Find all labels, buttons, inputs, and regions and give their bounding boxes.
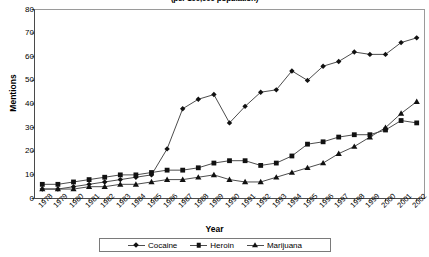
x-tick-label: 1983 [115,192,132,209]
chart-legend: CocaineHeroinMarijuana [99,238,331,252]
square-marker-icon [190,241,207,249]
x-tick-label: 1990 [224,192,241,209]
x-tick-label: 1995 [302,192,319,209]
x-tick-label: 1993 [271,192,288,209]
x-tick-label: 1980 [68,192,85,209]
legend-item-cocaine[interactable]: Cocaine [128,241,177,250]
mentions-line-chart: (per 100,000 population) Mentions 010203… [0,0,429,257]
x-tick-label: 2000 [380,192,397,209]
x-tick-label: 2001 [396,192,413,209]
diamond-marker-icon [128,241,145,249]
x-tick-label: 1978 [37,192,54,209]
x-tick-label: 1989 [208,192,225,209]
x-tick-label: 1984 [130,192,147,209]
x-tick-label: 1991 [240,192,257,209]
legend-item-label: Heroin [210,241,234,250]
x-tick-label: 1999 [364,192,381,209]
legend-item-label: Marijuana [267,241,302,250]
x-tick-label: 1981 [84,192,101,209]
x-axis-title: Year [0,224,429,234]
x-tick-label: 1988 [193,192,210,209]
x-tick-label: 1987 [177,192,194,209]
x-tick-label: 1996 [318,192,335,209]
x-tick-label: 1979 [52,192,69,209]
legend-item-marijuana[interactable]: Marijuana [247,241,302,250]
x-tick-label: 1998 [349,192,366,209]
x-tick-label: 2002 [411,192,428,209]
x-tick-label: 1986 [162,192,179,209]
legend-item-heroin[interactable]: Heroin [190,241,234,250]
triangle-marker-icon [247,241,264,249]
x-tick-label: 1992 [255,192,272,209]
x-axis-tick-labels: 1978197919801981198219831984198519861987… [0,0,429,257]
x-tick-label: 1997 [333,192,350,209]
x-tick-label: 1994 [286,192,303,209]
x-tick-label: 1985 [146,192,163,209]
x-tick-label: 1982 [99,192,116,209]
legend-item-label: Cocaine [148,241,177,250]
